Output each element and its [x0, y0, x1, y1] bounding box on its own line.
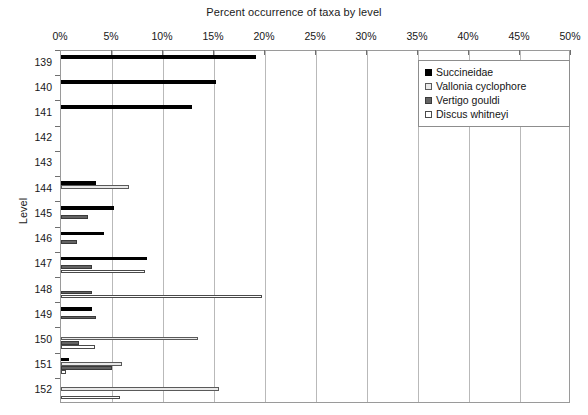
- bar-vertigo-gouldi-level-149: [61, 316, 96, 320]
- y-tick-label-140: 140: [0, 81, 52, 93]
- x-tick-mark-1: [111, 50, 112, 55]
- bar-vertigo-gouldi-level-151: [61, 366, 112, 370]
- bar-discus-whitneyi-level-147: [61, 270, 145, 274]
- legend-label: Succineidae: [436, 65, 493, 79]
- x-tick-label-3: 15%: [191, 30, 235, 42]
- x-tick-label-6: 30%: [344, 30, 388, 42]
- chart-legend: SuccineidaeVallonia cyclophoreVertigo go…: [418, 60, 570, 127]
- bar-discus-whitneyi-level-151: [61, 370, 66, 374]
- y-tick-mark-147: [55, 252, 60, 253]
- x-axis-tick-labels: 0%5%10%15%20%25%30%35%40%45%50%: [0, 30, 588, 46]
- y-tick-mark-139: [55, 50, 60, 51]
- y-tick-mark-150: [55, 327, 60, 328]
- bar-vallonia-cyclophore-level-151: [61, 362, 122, 366]
- legend-swatch-icon-3: [425, 111, 432, 118]
- bar-vallonia-cyclophore-level-152: [61, 387, 219, 391]
- y-tick-mark-143: [55, 151, 60, 152]
- x-tick-mark-5: [315, 50, 316, 55]
- y-tick-label-151: 151: [0, 358, 52, 370]
- y-tick-label-152: 152: [0, 383, 52, 395]
- y-axis-tick-labels: 1391401411421431441451461471481491501511…: [0, 50, 58, 403]
- x-tick-mark-7: [417, 50, 418, 55]
- y-tick-mark-142: [55, 126, 60, 127]
- chart-figure: Percent occurrence of taxa by level 0%5%…: [0, 0, 588, 415]
- x-tick-label-4: 20%: [242, 30, 286, 42]
- y-tick-label-149: 149: [0, 308, 52, 320]
- bar-succineidae-level-140: [61, 80, 216, 84]
- legend-item-discus-whitneyi[interactable]: Discus whitneyi: [425, 107, 564, 121]
- bar-succineidae-level-139: [61, 55, 256, 59]
- chart-title: Percent occurrence of taxa by level: [0, 6, 588, 18]
- x-tick-label-2: 10%: [140, 30, 184, 42]
- y-tick-mark-151: [55, 353, 60, 354]
- y-tick-mark-148: [55, 277, 60, 278]
- y-tick-mark-141: [55, 100, 60, 101]
- bar-succineidae-level-144: [61, 181, 96, 185]
- legend-item-succineidae[interactable]: Succineidae: [425, 65, 564, 79]
- y-tick-mark-140: [55, 75, 60, 76]
- y-axis-title: Level: [17, 181, 29, 241]
- bar-vertigo-gouldi-level-150: [61, 341, 79, 345]
- bar-discus-whitneyi-level-148: [61, 295, 262, 299]
- bar-succineidae-level-146: [61, 232, 104, 236]
- x-tick-label-7: 35%: [395, 30, 439, 42]
- y-tick-label-148: 148: [0, 283, 52, 295]
- x-tick-mark-10: [570, 50, 571, 55]
- x-tick-mark-4: [264, 50, 265, 55]
- y-tick-label-150: 150: [0, 333, 52, 345]
- legend-item-vallonia-cyclophore[interactable]: Vallonia cyclophore: [425, 79, 564, 93]
- legend-swatch-icon-2: [425, 97, 432, 104]
- x-tick-mark-6: [366, 50, 367, 55]
- y-tick-label-142: 142: [0, 131, 52, 143]
- legend-label: Discus whitneyi: [436, 107, 508, 121]
- y-tick-mark-145: [55, 201, 60, 202]
- x-tick-mark-8: [468, 50, 469, 55]
- legend-swatch-icon-0: [425, 69, 432, 76]
- bar-vertigo-gouldi-level-148: [61, 291, 92, 295]
- y-tick-mark-144: [55, 176, 60, 177]
- bar-succineidae-level-141: [61, 105, 192, 109]
- y-tick-label-139: 139: [0, 56, 52, 68]
- bar-vertigo-gouldi-level-145: [61, 215, 88, 219]
- x-tick-label-8: 40%: [446, 30, 490, 42]
- y-tick-label-143: 143: [0, 156, 52, 168]
- bar-succineidae-level-151: [61, 358, 69, 362]
- bar-vallonia-cyclophore-level-144: [61, 185, 129, 189]
- x-tick-mark-3: [213, 50, 214, 55]
- x-tick-mark-9: [519, 50, 520, 55]
- legend-swatch-icon-1: [425, 83, 432, 90]
- bar-discus-whitneyi-level-152: [61, 396, 120, 400]
- y-tick-label-147: 147: [0, 257, 52, 269]
- bar-vallonia-cyclophore-level-150: [61, 337, 198, 341]
- bar-discus-whitneyi-level-150: [61, 345, 95, 349]
- x-tick-label-10: 50%: [548, 30, 588, 42]
- bar-vertigo-gouldi-level-147: [61, 265, 92, 269]
- x-tick-label-1: 5%: [89, 30, 133, 42]
- y-tick-mark-146: [55, 227, 60, 228]
- x-tick-label-0: 0%: [38, 30, 82, 42]
- y-tick-mark-152: [55, 378, 60, 379]
- bar-succineidae-level-147: [61, 257, 147, 261]
- legend-label: Vallonia cyclophore: [436, 79, 526, 93]
- y-tick-label-141: 141: [0, 106, 52, 118]
- x-tick-label-9: 45%: [497, 30, 541, 42]
- legend-item-vertigo-gouldi[interactable]: Vertigo gouldi: [425, 93, 564, 107]
- legend-label: Vertigo gouldi: [436, 93, 500, 107]
- x-tick-mark-2: [162, 50, 163, 55]
- x-tick-label-5: 25%: [293, 30, 337, 42]
- bar-vertigo-gouldi-level-146: [61, 240, 77, 244]
- bar-succineidae-level-145: [61, 206, 114, 210]
- y-tick-mark-149: [55, 302, 60, 303]
- bar-succineidae-level-149: [61, 307, 92, 311]
